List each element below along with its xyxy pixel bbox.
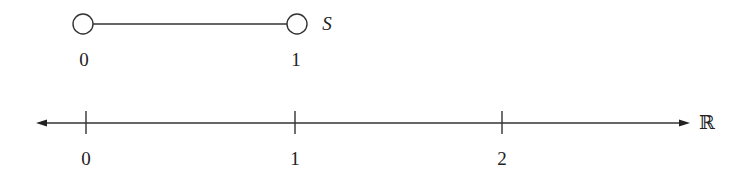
tick-label-0: 0 [81,149,91,168]
right-arrow-icon [679,120,690,127]
diagram-canvas [0,0,744,174]
real-number-line [36,111,690,134]
segment-endpoint-label-1: 1 [291,50,301,69]
real-line-label: ℝ [699,113,715,132]
left-arrow-icon [36,120,47,127]
segment-endpoint-label-0: 0 [79,50,89,69]
tick-label-1: 1 [290,149,300,168]
segment-label: S [322,14,332,33]
tick-label-2: 2 [497,149,507,168]
open-endpoint-0 [73,14,93,34]
open-endpoint-1 [287,14,307,34]
segment-s [73,14,307,34]
